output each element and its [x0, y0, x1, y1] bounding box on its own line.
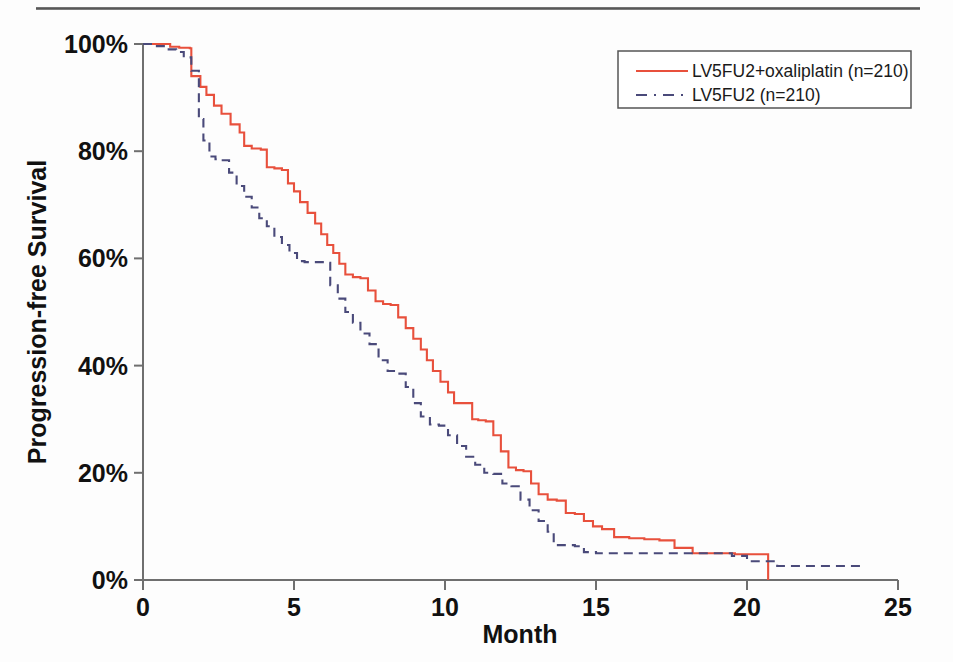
y-axis-tick-labels: 0%20%40%60%80%100% — [64, 30, 128, 594]
kaplan-meier-figure: 0%20%40%60%80%100% 0510152025 Progressio… — [0, 0, 953, 662]
y-tick-label: 20% — [78, 459, 128, 487]
y-axis-ticks — [134, 44, 143, 580]
x-tick-label: 25 — [884, 593, 912, 621]
x-axis-title: Month — [483, 620, 558, 648]
x-axis-tick-labels: 0510152025 — [136, 593, 912, 621]
x-axis-ticks — [143, 580, 898, 590]
series-curves — [143, 44, 865, 580]
plot-svg: 0%20%40%60%80%100% 0510152025 Progressio… — [0, 0, 953, 662]
legend-label-lv5fu2: LV5FU2 (n=210) — [692, 85, 821, 105]
x-tick-label: 0 — [136, 593, 150, 621]
y-tick-label: 40% — [78, 352, 128, 380]
series-curve-oxaliplatin — [143, 44, 768, 580]
y-tick-label: 0% — [92, 566, 128, 594]
x-tick-label: 20 — [733, 593, 761, 621]
series-curve-lv5fu2 — [143, 44, 865, 566]
legend: LV5FU2+oxaliplatin (n=210) LV5FU2 (n=210… — [618, 51, 911, 108]
figure-page: 0%20%40%60%80%100% 0510152025 Progressio… — [0, 0, 953, 662]
legend-label-oxaliplatin: LV5FU2+oxaliplatin (n=210) — [692, 61, 909, 81]
x-tick-label: 15 — [582, 593, 610, 621]
y-axis-title: Progression-free Survival — [23, 160, 51, 464]
x-tick-label: 10 — [431, 593, 459, 621]
y-tick-label: 100% — [64, 30, 128, 58]
y-tick-label: 80% — [78, 137, 128, 165]
y-tick-label: 60% — [78, 244, 128, 272]
x-tick-label: 5 — [287, 593, 301, 621]
